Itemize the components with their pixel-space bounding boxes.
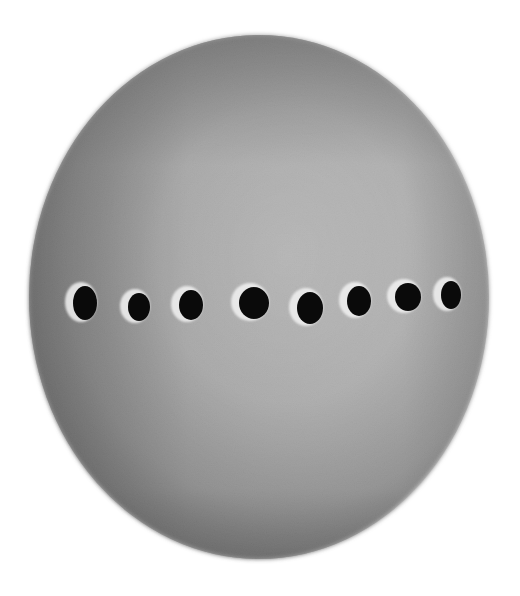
spot bbox=[128, 293, 150, 321]
spot bbox=[395, 283, 421, 311]
spot bbox=[441, 281, 461, 309]
spot bbox=[73, 286, 97, 320]
spot bbox=[239, 287, 269, 319]
spot bbox=[297, 292, 323, 324]
spot bbox=[179, 290, 203, 320]
drawing-canvas bbox=[0, 0, 520, 596]
spot bbox=[347, 286, 371, 316]
